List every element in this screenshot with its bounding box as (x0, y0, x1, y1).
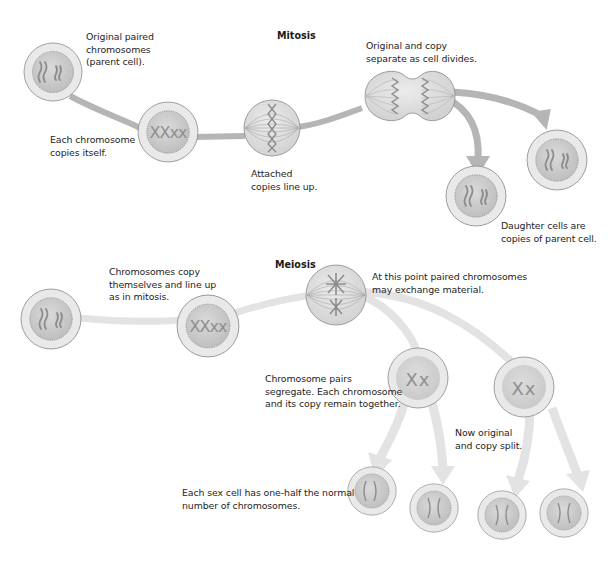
meiosis-sex-cell-3 (478, 491, 526, 539)
mitosis-dividing-cell (365, 71, 455, 120)
mitosis-daughter-cell-right (527, 130, 587, 190)
cell-division-diagram: XXxx (0, 0, 615, 562)
label-sex-cell: Each sex cell has one-half the normal nu… (182, 487, 354, 512)
label-copies: Each chromosome copies itself. (50, 134, 135, 159)
label-parent-cell: Original paired chromosomes (parent cell… (86, 31, 154, 69)
meiosis-sex-cell-4 (540, 489, 588, 537)
meiosis-replicated-cell: XXxx (177, 295, 239, 357)
meiosis-first-division-cell-2: Xx (494, 357, 554, 417)
label-copy-line-up: Chromosomes copy themselves and line up … (109, 266, 216, 304)
chromosome-glyphs: Xx (512, 378, 537, 399)
chromosome-glyphs: XXxx (150, 123, 187, 142)
label-segregate: Chromosome pairs segregate. Each chromos… (265, 373, 402, 411)
meiosis-crossover-cell (306, 265, 366, 325)
mitosis-daughter-cell-lower (446, 166, 506, 226)
meiosis-sex-cell-2 (410, 484, 458, 532)
label-line-up: Attached copies line up. (251, 168, 317, 193)
meiosis-sex-cell-1 (348, 467, 396, 515)
mitosis-metaphase-cell (244, 100, 300, 156)
meiosis-parent-cell (21, 289, 81, 349)
label-exchange: At this point paired chromosomes may exc… (372, 271, 527, 296)
label-daughter-cells: Daughter cells are copies of parent cell… (501, 220, 597, 245)
chromosome-glyphs: Xx (406, 369, 431, 390)
chromosome-glyphs: XXxx (190, 317, 227, 336)
mitosis-title: Mitosis (277, 30, 316, 41)
mitosis-replicated-cell: XXxx (138, 102, 198, 162)
label-separate: Original and copy separate as cell divid… (366, 40, 477, 65)
label-split: Now original and copy split. (455, 427, 522, 452)
meiosis-title: Meiosis (275, 259, 316, 270)
mitosis-parent-cell (24, 43, 82, 101)
